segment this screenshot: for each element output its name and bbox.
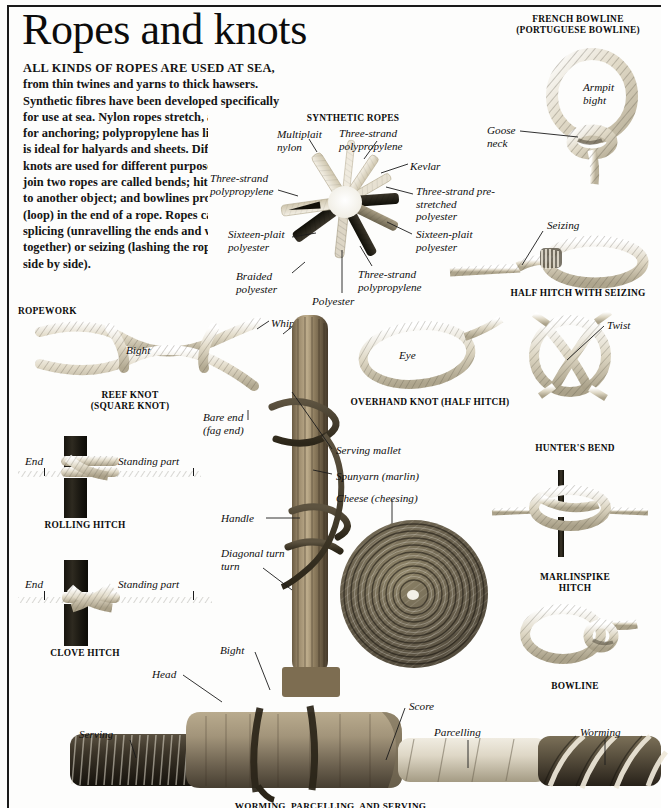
bottom-caption: WORMING, PARCELLING, AND SERVING	[0, 801, 661, 808]
